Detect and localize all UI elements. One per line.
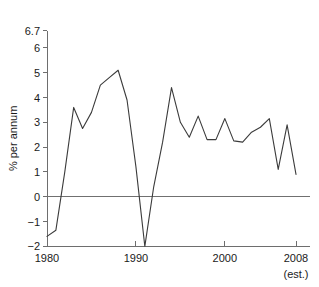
chart-figure: 6.76543210−1−2 1980199020002008 % per an… — [0, 0, 319, 287]
y-tick-label: 3 — [34, 116, 40, 128]
y-tick-label: 0 — [34, 191, 40, 203]
x-axis: 1980199020002008 — [35, 241, 310, 264]
y-tick-label: 4 — [34, 92, 40, 104]
y-tick-label: 2 — [34, 141, 40, 153]
estimate-note: (est.) — [283, 268, 308, 280]
x-tick-label: 1980 — [35, 252, 59, 264]
y-axis-title: % per annum — [7, 106, 19, 171]
y-tick-label: −1 — [27, 216, 40, 228]
y-tick-label: 6 — [34, 42, 40, 54]
y-tick-label: −2 — [27, 240, 40, 252]
x-tick-label: 1990 — [124, 252, 148, 264]
y-tick-label: 5 — [34, 67, 40, 79]
y-axis: 6.76543210−1−2 — [25, 25, 47, 253]
x-tick-label: 2008 — [284, 252, 308, 264]
y-tick-label: 6.7 — [25, 25, 40, 37]
y-tick-label: 1 — [34, 166, 40, 178]
data-series-line — [47, 70, 296, 246]
line-chart: 6.76543210−1−2 1980199020002008 % per an… — [0, 0, 319, 287]
x-tick-label: 2000 — [213, 252, 237, 264]
